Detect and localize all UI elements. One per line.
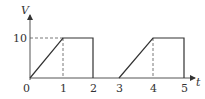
x-tick-3: 3 [116,82,123,95]
pulse-2 [119,38,184,78]
x-tick-1: 1 [60,82,67,95]
x-tick-2: 2 [90,82,97,95]
y-axis-label: V [21,4,30,17]
x-tick-4: 4 [150,82,157,95]
voltage-time-diagram: V t 10 0 1 2 3 4 5 [0,0,205,99]
pulse-1 [30,38,93,78]
y-tick-10: 10 [13,32,27,45]
x-tick-5: 5 [181,82,188,95]
x-axis-label: t [196,76,201,89]
x-tick-0: 0 [23,82,30,95]
